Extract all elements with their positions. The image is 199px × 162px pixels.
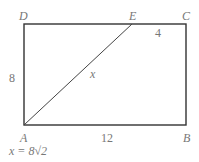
side-ad-length: 8	[9, 71, 15, 85]
vertex-a-label: A	[19, 131, 28, 145]
vertex-d-label: D	[18, 9, 28, 23]
segment-ae-label: x	[89, 67, 96, 81]
geometry-diagram: D E C A B 8 12 4 x x = 8√2	[0, 0, 199, 162]
vertex-c-label: C	[182, 9, 191, 23]
side-ab-length: 12	[101, 131, 113, 145]
side-ec-length: 4	[155, 26, 161, 40]
rectangle-abcd	[24, 24, 186, 125]
vertex-e-label: E	[128, 9, 137, 23]
answer-text: x = 8√2	[8, 144, 47, 158]
vertex-b-label: B	[183, 131, 191, 145]
segment-ae	[24, 24, 132, 125]
